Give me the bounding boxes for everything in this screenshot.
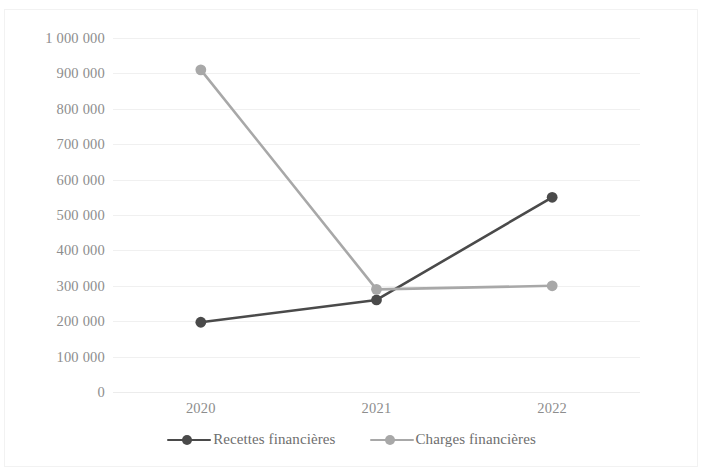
legend-marker-icon — [167, 433, 211, 447]
data-point-marker[interactable] — [371, 295, 382, 306]
legend-item-recettes[interactable]: Recettes financières — [167, 432, 335, 447]
legend-label-recettes: Recettes financières — [213, 432, 335, 447]
data-point-marker[interactable] — [371, 284, 382, 295]
data-point-marker[interactable] — [547, 280, 558, 291]
line-chart: 1 000 000900 000800 000700 000600 000500… — [0, 0, 703, 471]
legend-item-charges[interactable]: Charges financières — [370, 432, 536, 447]
data-point-marker[interactable] — [195, 64, 206, 75]
chart-legend: Recettes financières Charges financières — [0, 432, 703, 447]
series-layer — [0, 0, 703, 471]
data-point-marker[interactable] — [547, 192, 558, 203]
data-point-marker[interactable] — [195, 317, 206, 328]
legend-marker-icon — [370, 433, 414, 447]
legend-label-charges: Charges financières — [416, 432, 536, 447]
series-line — [201, 70, 552, 289]
